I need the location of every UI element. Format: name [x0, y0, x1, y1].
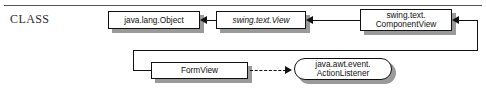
node-java-awt-event-actionlistener[interactable]: java.awt.event. ActionListener	[294, 58, 392, 80]
edge-formview-to-componentview-run	[133, 50, 478, 51]
edge-formview-to-actionlistener-arrowhead	[285, 66, 292, 74]
node-label-formview: FormView	[178, 66, 221, 75]
edge-formview-to-componentview-riser-left	[133, 50, 134, 70]
node-swing-text-componentview[interactable]: swing.text. ComponentView	[360, 9, 452, 31]
node-java-lang-object[interactable]: java.lang.Object	[108, 11, 200, 29]
section-label-text: CLASS	[10, 12, 49, 26]
node-formview[interactable]: FormView	[151, 62, 248, 79]
node-label-swing-text-view: swing.text.View	[229, 16, 292, 25]
edge-formview-to-componentview-entry	[459, 20, 478, 21]
edge-formview-to-actionlistener-line	[250, 70, 286, 71]
node-label-java-awt-event-actionlistener: java.awt.event. ActionListener	[312, 60, 373, 78]
edge-view-to-object-arrowhead	[200, 16, 207, 24]
edge-formview-to-componentview-stub	[133, 70, 152, 71]
uml-class-diagram: CLASS java.lang.Object swing.text.View s…	[0, 0, 486, 98]
node-swing-text-view[interactable]: swing.text.View	[216, 11, 306, 29]
header-divider	[4, 5, 482, 6]
node-label-java-lang-object: java.lang.Object	[121, 16, 187, 25]
edge-formview-to-componentview-arrowhead	[452, 16, 459, 24]
edge-formview-to-componentview-riser-right	[477, 20, 478, 50]
edge-componentview-to-view-line	[313, 20, 361, 21]
edge-componentview-to-view-arrowhead	[306, 16, 313, 24]
node-label-swing-text-componentview: swing.text. ComponentView	[373, 11, 440, 29]
section-label: CLASS	[10, 12, 49, 27]
